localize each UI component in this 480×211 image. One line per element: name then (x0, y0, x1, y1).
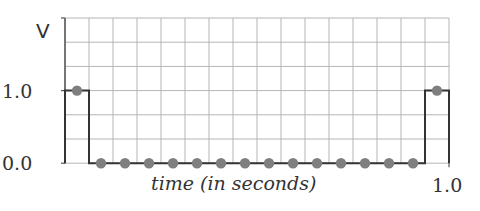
y-tick-0: 0.0 (2, 152, 32, 174)
x-tick-end: 1.0 (432, 174, 462, 196)
sample-dot (216, 158, 226, 168)
sample-dot (264, 158, 274, 168)
x-axis-label: time (in seconds) (151, 172, 316, 194)
sample-dot (384, 158, 394, 168)
sample-dot (144, 158, 154, 168)
sample-dot (312, 158, 322, 168)
sample-dot (408, 158, 418, 168)
sample-dot (96, 158, 106, 168)
sample-dot (120, 158, 130, 168)
sample-dot (288, 158, 298, 168)
sample-dot (360, 158, 370, 168)
y-axis-label: V (36, 19, 50, 43)
sample-dot (72, 85, 82, 95)
chart: V 1.0 0.0 time (in seconds) 1.0 (0, 0, 480, 211)
sample-dot (432, 85, 442, 95)
sample-dot (192, 158, 202, 168)
sample-dot (240, 158, 250, 168)
sample-dot (168, 158, 178, 168)
grid (65, 18, 449, 163)
axes (61, 18, 449, 167)
y-tick-1: 1.0 (2, 80, 32, 102)
sample-dot (336, 158, 346, 168)
